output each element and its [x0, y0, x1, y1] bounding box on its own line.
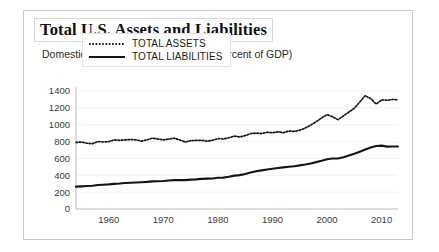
y-axis-tick-label: 1000 [49, 119, 70, 130]
y-axis-tick-label: 200 [54, 187, 70, 198]
y-axis-ticks-group: 0200400600800100012001400 [49, 85, 70, 214]
plot-area: 0200400600800100012001400 19601970198019… [24, 63, 412, 239]
x-axis-tick-label: 1980 [207, 214, 228, 225]
x-axis-tick-label: 2000 [316, 214, 337, 225]
legend-swatch-solid-icon [88, 52, 126, 62]
x-axis-tick-label: 1970 [153, 214, 174, 225]
y-axis-tick-label: 800 [54, 136, 70, 147]
legend-item-total-liabilities: TOTAL LIABILITIES [88, 50, 222, 63]
x-axis-tick-label: 2010 [371, 214, 392, 225]
legend-item-total-assets: TOTAL ASSETS [88, 37, 222, 50]
chart-svg: 0200400600800100012001400 19601970198019… [24, 63, 412, 239]
x-axis-tick-label: 1960 [98, 214, 119, 225]
chart-figure: Total U.S. Assets and Liabilities Domest… [23, 10, 413, 240]
gridlines-group [76, 91, 398, 192]
legend-label-total-assets: TOTAL ASSETS [132, 38, 206, 49]
y-axis-tick-label: 1200 [49, 102, 70, 113]
y-axis-tick-label: 600 [54, 153, 70, 164]
y-axis-tick-label: 1400 [49, 85, 70, 96]
y-axis-tick-label: 400 [54, 170, 70, 181]
x-axis-tick-label: 1990 [262, 214, 283, 225]
legend-label-total-liabilities: TOTAL LIABILITIES [132, 51, 222, 62]
y-axis-tick-label: 0 [65, 203, 70, 214]
series-line-total-assets [76, 96, 398, 144]
legend-swatch-dotted-icon [88, 39, 126, 49]
x-axis-ticks-group: 196019701980199020002010 [98, 214, 392, 225]
series-line-total-liabilities [76, 146, 398, 187]
chart-legend: TOTAL ASSETS TOTAL LIABILITIES [82, 33, 231, 67]
